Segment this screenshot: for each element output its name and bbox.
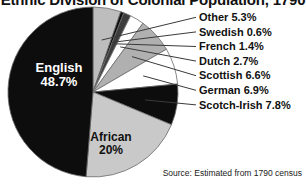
legend-item: Swedish 0.6% — [199, 25, 306, 40]
legend-item: French 1.4% — [199, 39, 306, 54]
legend-item: German 6.9% — [199, 83, 306, 98]
slice-label-english: English 48.7% — [22, 61, 96, 89]
slice-label-african-name: African — [90, 130, 131, 144]
legend-item: Other 5.3% — [199, 10, 306, 25]
legend-item: Scotch-Irish 7.8% — [199, 98, 306, 113]
slice-label-english-pct: 48.7% — [22, 75, 96, 89]
source-note: Source: Estimated from 1790 census — [163, 168, 302, 178]
legend-item: Scottish 6.6% — [199, 68, 306, 83]
slice-label-english-name: English — [36, 60, 83, 75]
slice-label-african-pct: 20% — [76, 144, 146, 157]
pie-chart-figure: Ethnic Division of Colonial Population, … — [0, 0, 306, 184]
slice-label-african: African 20% — [76, 131, 146, 157]
legend: Other 5.3%Swedish 0.6%French 1.4%Dutch 2… — [199, 10, 306, 112]
legend-item: Dutch 2.7% — [199, 54, 306, 69]
